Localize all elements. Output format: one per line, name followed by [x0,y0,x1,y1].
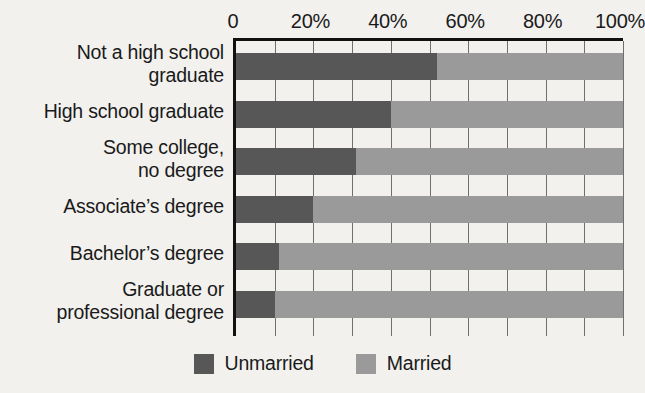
chart-legend: UnmarriedMarried [0,352,645,375]
bar-segment-unmarried [236,291,275,318]
y-category-label: Some college,no degree [0,136,224,182]
y-category-label-line: graduate [0,64,224,87]
x-axis-tick-labels: 020%40%60%80%100% [233,10,620,36]
bar-row [236,196,623,223]
bar-segment-unmarried [236,101,391,128]
x-tick-label-40: 40% [368,10,407,33]
y-category-label-line: Associate’s degree [0,195,224,218]
bar-row [236,53,623,80]
y-axis-category-labels: Not a high schoolgraduateHigh school gra… [0,38,224,333]
y-category-label-line: High school graduate [0,100,224,123]
x-tick-label-0: 0 [228,10,239,33]
y-category-label: Bachelor’s degree [0,242,224,265]
legend-swatch-icon [356,354,376,374]
y-category-label-line: Not a high school [0,41,224,64]
x-tick-label-60: 60% [446,10,485,33]
y-category-label-line: no degree [0,159,224,182]
bar-row [236,101,623,128]
bar-segment-unmarried [236,148,356,175]
stacked-bar-chart: 020%40%60%80%100% Not a high schoolgradu… [0,0,645,393]
bar-segment-married [391,101,623,128]
x-tick-label-80: 80% [523,10,562,33]
y-category-label: High school graduate [0,100,224,123]
bar-row [236,148,623,175]
bar-segment-married [437,53,623,80]
y-category-label-line: professional degree [0,301,224,324]
y-category-label-line: Some college, [0,136,224,159]
bar-segment-unmarried [236,53,437,80]
bar-segment-married [275,291,623,318]
x-tick-label-20: 20% [291,10,330,33]
bar-segment-married [279,243,623,270]
bar-row [236,291,623,318]
bar-segment-unmarried [236,243,279,270]
legend-label: Married [387,352,452,375]
y-category-label-line: Graduate or [0,278,224,301]
x-tick-label-100: 100% [595,10,645,33]
bar-segment-unmarried [236,196,313,223]
bars-layer [236,41,623,336]
y-category-label: Associate’s degree [0,195,224,218]
bar-row [236,243,623,270]
y-category-label: Graduate orprofessional degree [0,278,224,324]
legend-item-unmarried[interactable]: Unmarried [194,352,314,375]
legend-swatch-icon [194,354,214,374]
gridline-100 [623,41,624,336]
y-category-label: Not a high schoolgraduate [0,41,224,87]
legend-item-married[interactable]: Married [356,352,452,375]
bar-segment-married [313,196,623,223]
y-category-label-line: Bachelor’s degree [0,242,224,265]
legend-label: Unmarried [225,352,314,375]
plot-area [233,38,623,336]
bar-segment-married [356,148,623,175]
